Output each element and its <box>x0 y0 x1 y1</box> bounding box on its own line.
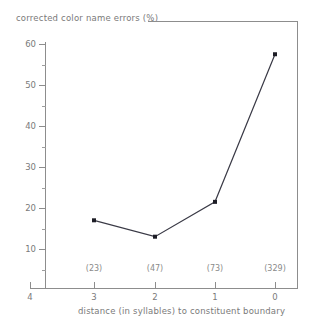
x-axis-label: distance (in syllables) to constituent b… <box>78 306 285 316</box>
series-markers <box>92 52 277 238</box>
data-series-plot <box>0 0 329 322</box>
data-point-marker <box>273 52 277 56</box>
chart-figure: corrected color name errors (%) 10203040… <box>0 0 329 322</box>
series-line <box>94 54 275 236</box>
data-point-marker <box>213 200 217 204</box>
data-point-marker <box>153 235 157 239</box>
data-point-marker <box>92 218 96 222</box>
